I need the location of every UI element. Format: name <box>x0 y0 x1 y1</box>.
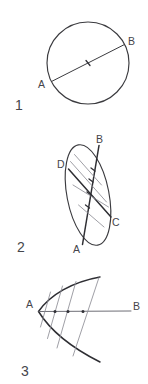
axis-line-ab <box>39 311 131 312</box>
figure-2-ellipse-group: B D C A 2 <box>17 133 120 255</box>
figure-2-number: 2 <box>17 239 25 255</box>
chord-midpoint-dot-2 <box>67 310 70 313</box>
figure-2-label-b: B <box>96 133 103 145</box>
parallel-chord-4 <box>73 278 99 357</box>
figure-2-label-a: A <box>73 243 80 255</box>
diameter-midpoint-tick <box>86 61 90 66</box>
parabola-curve <box>39 277 101 362</box>
figure-3-parabola-group: A B 3 <box>21 277 140 379</box>
figure-1-number: 1 <box>15 97 23 113</box>
figure-1-circle-group: A B 1 <box>15 22 135 113</box>
geometry-figure-sheet: A B 1 B D C A 2 <box>0 0 148 384</box>
ellipse-outline <box>58 141 119 249</box>
figure-3-label-a: A <box>26 298 33 310</box>
chord-midpoint-dot-1 <box>54 310 57 313</box>
figure-2-label-c: C <box>112 216 120 228</box>
parallel-chord-4 <box>79 205 105 227</box>
figure-2-label-d: D <box>57 158 65 170</box>
figure-3-number: 3 <box>21 363 29 379</box>
figure-3-label-b: B <box>133 300 140 312</box>
figure-1-label-a: A <box>38 78 45 90</box>
chord-midpoint-tick-2 <box>89 179 93 182</box>
parallel-chord-3 <box>73 185 109 207</box>
chord-midpoint-dot-3 <box>82 310 85 313</box>
figure-1-label-b: B <box>128 35 135 47</box>
